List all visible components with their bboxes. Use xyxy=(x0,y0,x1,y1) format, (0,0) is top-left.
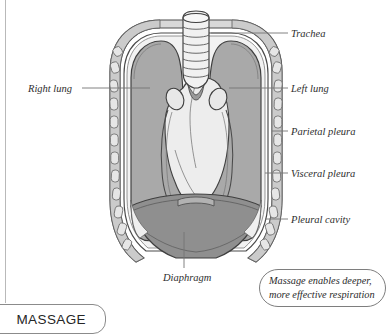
rib xyxy=(111,152,119,164)
rib xyxy=(273,152,281,164)
diaphragm-group xyxy=(131,194,261,258)
diaphragm xyxy=(131,194,261,258)
label-left-lung: Left lung xyxy=(291,83,329,95)
label-diaphragm: Diaphragm xyxy=(163,272,211,284)
rib xyxy=(111,170,119,182)
rib xyxy=(272,170,280,182)
rib xyxy=(109,80,118,93)
rib xyxy=(112,188,121,201)
rib xyxy=(274,134,282,146)
label-visceral-pleura: Visceral pleura xyxy=(291,168,355,180)
rib xyxy=(274,98,282,110)
chapter-tab-massage[interactable]: MASSAGE xyxy=(0,304,106,334)
trachea-group xyxy=(183,11,209,88)
label-right-lung: Right lung xyxy=(28,83,72,95)
massage-callout: Massage enables deeper, more effective r… xyxy=(259,269,386,307)
chapter-tab-label: MASSAGE xyxy=(16,312,86,327)
rib xyxy=(110,116,118,128)
rib xyxy=(110,98,118,110)
rib xyxy=(110,134,118,146)
rib xyxy=(274,116,282,128)
callout-line-1: Massage enables deeper, xyxy=(269,274,372,288)
rib xyxy=(273,80,282,93)
label-pleural-cavity: Pleural cavity xyxy=(291,214,350,226)
rib xyxy=(271,188,280,201)
trachea-top-rim xyxy=(183,13,209,22)
callout-line-2: more effective respiration xyxy=(269,288,375,302)
label-trachea: Trachea xyxy=(291,28,325,40)
label-parietal-pleura: Parietal pleura xyxy=(291,126,355,138)
